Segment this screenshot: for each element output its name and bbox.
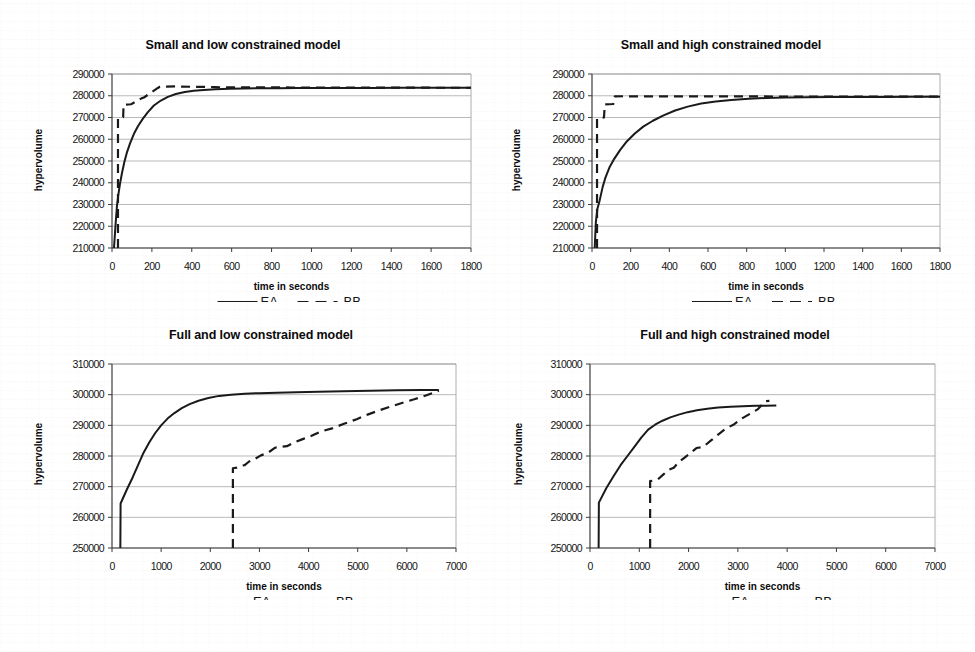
x-axis-ticks: 020040060080010001200140016001800 <box>589 248 951 272</box>
y-tick-label: 260000 <box>553 133 585 145</box>
plot-area-wrapper: 2500002600002700002800002900003000003100… <box>16 342 486 600</box>
legend-label-ea: EA <box>261 294 279 302</box>
plot-svg-full-low: 2500002600002700002800002900003000003100… <box>16 342 486 600</box>
x-tick-label: 0 <box>589 260 595 272</box>
legend-label-bb: BB <box>818 294 835 302</box>
chart-panel-full-low: Full and low constrained model 250000260… <box>16 326 486 626</box>
x-tick-label: 400 <box>184 260 200 272</box>
y-tick-label: 280000 <box>553 89 585 101</box>
y-tick-label: 220000 <box>553 220 585 232</box>
legend-label-ea: EA <box>735 294 753 302</box>
y-tick-label: 270000 <box>551 480 583 492</box>
chart-legend: EABB <box>210 594 353 600</box>
x-tick-label: 0 <box>587 560 593 572</box>
chart-title: Small and low constrained model <box>8 38 478 52</box>
x-tick-label: 6000 <box>875 560 897 572</box>
y-tick-label: 290000 <box>553 68 585 80</box>
x-tick-label: 800 <box>739 260 755 272</box>
chart-grid: Small and low constrained model 21000022… <box>0 0 975 652</box>
y-tick-label: 260000 <box>73 133 105 145</box>
y-tick-label: 300000 <box>551 388 583 400</box>
x-tick-label: 600 <box>224 260 240 272</box>
y-axis-title: hypervolume <box>513 422 524 485</box>
chart-panel-small-low: Small and low constrained model 21000022… <box>16 34 486 324</box>
x-tick-label: 0 <box>109 560 115 572</box>
y-tick-label: 270000 <box>73 480 105 492</box>
y-tick-label: 220000 <box>73 220 105 232</box>
x-axis-ticks: 01000200030004000500060007000 <box>109 548 467 572</box>
y-tick-label: 310000 <box>551 358 583 370</box>
y-tick-label: 230000 <box>553 198 585 210</box>
x-tick-label: 6000 <box>396 560 418 572</box>
x-tick-label: 1200 <box>341 260 363 272</box>
x-tick-label: 1000 <box>629 560 651 572</box>
y-axis-ticks: 2500002600002700002800002900003000003100… <box>73 358 112 554</box>
x-tick-label: 1000 <box>775 260 797 272</box>
x-tick-label: 1400 <box>381 260 403 272</box>
plot-area-wrapper: 2100002200002300002400002500002600002700… <box>490 52 960 302</box>
plot-root: 2500002600002700002800002900003000003100… <box>33 358 467 600</box>
x-tick-label: 200 <box>144 260 160 272</box>
chart-title: Full and low constrained model <box>26 328 496 342</box>
x-tick-label: 1600 <box>421 260 443 272</box>
y-tick-label: 280000 <box>73 450 105 462</box>
y-tick-label: 250000 <box>551 542 583 554</box>
x-tick-label: 0 <box>109 260 115 272</box>
chart-legend: EABB <box>692 294 835 302</box>
y-axis-ticks: 2100002200002300002400002500002600002700… <box>73 68 112 254</box>
y-tick-label: 240000 <box>73 176 105 188</box>
x-tick-label: 4000 <box>298 560 320 572</box>
x-tick-label: 2000 <box>678 560 700 572</box>
y-tick-label: 230000 <box>73 198 105 210</box>
plot-area-wrapper: 2100002200002300002400002500002600002700… <box>16 52 486 302</box>
plot-root: 2100002200002300002400002500002600002700… <box>33 68 482 302</box>
x-tick-label: 1800 <box>461 260 483 272</box>
x-tick-label: 5000 <box>826 560 848 572</box>
x-tick-label: 7000 <box>446 560 468 572</box>
y-tick-label: 260000 <box>73 511 105 523</box>
y-axis-title: hypervolume <box>33 128 44 191</box>
y-tick-label: 250000 <box>73 542 105 554</box>
x-tick-label: 4000 <box>777 560 799 572</box>
x-tick-label: 3000 <box>249 560 271 572</box>
y-tick-label: 250000 <box>73 155 105 167</box>
x-tick-label: 200 <box>623 260 639 272</box>
x-tick-label: 1200 <box>814 260 836 272</box>
x-tick-label: 7000 <box>925 560 947 572</box>
x-tick-label: 400 <box>661 260 677 272</box>
y-tick-label: 280000 <box>73 89 105 101</box>
plot-svg-small-high: 2100002200002300002400002500002600002700… <box>490 52 960 302</box>
y-axis-ticks: 2500002600002700002800002900003000003100… <box>551 358 590 554</box>
chart-title: Small and high constrained model <box>486 38 956 52</box>
chart-panel-small-high: Small and high constrained model 2100002… <box>490 34 960 324</box>
y-tick-label: 290000 <box>73 68 105 80</box>
legend-label-bb: BB <box>344 294 361 302</box>
plot-area-wrapper: 2500002600002700002800002900003000003100… <box>490 342 960 600</box>
x-axis-title: time in seconds <box>728 281 804 292</box>
y-axis-title: hypervolume <box>511 128 522 191</box>
y-tick-label: 290000 <box>551 419 583 431</box>
y-tick-label: 280000 <box>551 450 583 462</box>
chart-legend: EABB <box>689 594 832 600</box>
y-tick-label: 240000 <box>553 176 585 188</box>
x-axis-ticks: 01000200030004000500060007000 <box>587 548 946 572</box>
y-tick-label: 270000 <box>73 111 105 123</box>
y-tick-label: 310000 <box>73 358 105 370</box>
legend-label-bb: BB <box>336 594 353 600</box>
x-tick-label: 1400 <box>852 260 874 272</box>
y-tick-label: 270000 <box>553 111 585 123</box>
legend-label-ea: EA <box>732 594 750 600</box>
y-axis-ticks: 2100002200002300002400002500002600002700… <box>553 68 592 254</box>
x-tick-label: 2000 <box>200 560 222 572</box>
legend-label-bb: BB <box>815 594 832 600</box>
x-tick-label: 1000 <box>151 560 173 572</box>
y-tick-label: 290000 <box>73 419 105 431</box>
x-axis-title: time in seconds <box>725 581 801 592</box>
x-axis-title: time in seconds <box>254 281 330 292</box>
plot-root: 2100002200002300002400002500002600002700… <box>511 68 951 302</box>
y-tick-label: 210000 <box>553 242 585 254</box>
y-tick-label: 260000 <box>551 511 583 523</box>
x-tick-label: 5000 <box>347 560 369 572</box>
legend-label-ea: EA <box>253 594 271 600</box>
x-tick-label: 1600 <box>891 260 913 272</box>
